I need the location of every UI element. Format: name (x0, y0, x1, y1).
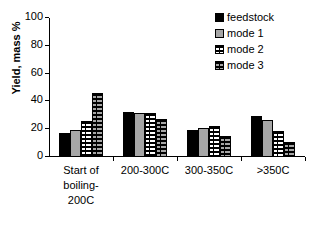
legend-item: mode 2 (215, 41, 274, 57)
bar-mode2 (145, 113, 156, 157)
y-tick-label: 80 (31, 38, 43, 51)
swatch-mode-3 (215, 61, 224, 70)
bar-mode1 (70, 130, 81, 157)
y-tick-label: 60 (31, 66, 43, 79)
bar-mode3 (220, 136, 231, 157)
x-axis-label: 300-350C (177, 163, 241, 178)
bar-feedstock (123, 112, 134, 157)
bar-chart: Yield, mass % 020406080100 Start of boil… (0, 0, 320, 234)
y-tick-label: 100 (25, 10, 43, 23)
legend-label: mode 2 (227, 43, 264, 56)
y-tick-label: 0 (37, 149, 43, 162)
x-axis-label: 200-300C (113, 163, 177, 178)
bar-feedstock (59, 133, 70, 157)
x-axis-label: >350C (241, 163, 305, 178)
bar-mode2 (81, 121, 92, 157)
bar-feedstock (187, 130, 198, 157)
y-tick-label: 40 (31, 93, 43, 106)
swatch-mode-1 (215, 29, 224, 38)
legend-item: feedstock (215, 9, 274, 25)
y-axis-title: Yield, mass % (10, 0, 22, 118)
bar-mode3 (156, 119, 167, 157)
x-tick-mark (113, 157, 114, 161)
bar-group (113, 18, 177, 157)
x-tick-mark (305, 157, 306, 161)
swatch-feedstock (215, 13, 224, 22)
legend-label: feedstock (227, 11, 274, 24)
x-tick-mark (241, 157, 242, 161)
chart-legend: feedstockmode 1mode 2mode 3 (215, 9, 274, 73)
legend-item: mode 3 (215, 57, 274, 73)
bar-mode1 (134, 113, 145, 157)
legend-label: mode 1 (227, 27, 264, 40)
bar-mode2 (209, 126, 220, 157)
bar-mode1 (198, 128, 209, 157)
y-tick-label: 20 (31, 121, 43, 134)
bar-mode2 (273, 131, 284, 157)
bar-group (49, 18, 113, 157)
legend-item: mode 1 (215, 25, 274, 41)
bar-mode3 (92, 93, 103, 157)
swatch-mode-2 (215, 45, 224, 54)
bar-mode1 (262, 120, 273, 157)
bar-feedstock (251, 116, 262, 157)
x-axis-label: Start of boiling- 200C (49, 163, 113, 208)
bar-mode3 (284, 142, 295, 157)
legend-label: mode 3 (227, 59, 264, 72)
x-tick-mark (177, 157, 178, 161)
